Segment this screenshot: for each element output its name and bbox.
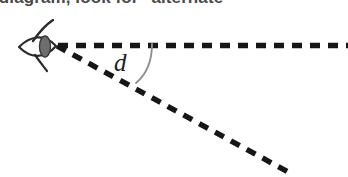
- angle-label: d: [114, 50, 127, 75]
- diagonal-sight-line: [57, 46, 290, 173]
- eye-icon: [19, 20, 56, 71]
- angle-arc: [136, 44, 152, 83]
- figure-canvas: ge diagram, look for "alternate d: [0, 0, 348, 177]
- eye-angle-diagram: [0, 0, 348, 177]
- eye-iris: [40, 36, 51, 57]
